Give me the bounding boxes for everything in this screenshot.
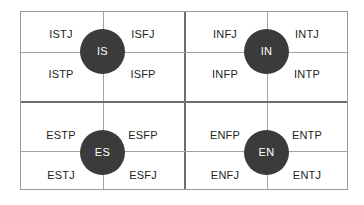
hub-circle-en: EN <box>244 130 289 175</box>
hub-label-is: IS <box>97 46 108 57</box>
hub-label-in: IN <box>261 46 273 57</box>
hub-label-en: EN <box>259 147 275 158</box>
hub-label-es: ES <box>95 147 110 158</box>
gridline-horizontal-1 <box>21 52 347 53</box>
gridline-horizontal-3 <box>21 151 347 152</box>
hub-circle-in: IN <box>244 29 289 74</box>
hub-circle-is: IS <box>80 29 125 74</box>
gridline-horizontal-center <box>21 101 347 103</box>
hub-circle-es: ES <box>80 130 125 175</box>
mbti-matrix-diagram: ISTJ ISFJ INFJ INTJ ISTP ISFP INFP INTP … <box>0 0 364 205</box>
